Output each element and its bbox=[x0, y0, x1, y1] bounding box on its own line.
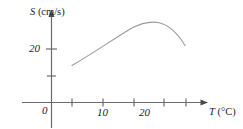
x-axis-title: T (°C) bbox=[209, 107, 236, 118]
x-axis-title-unit: (°C) bbox=[215, 106, 236, 117]
x-tick-label-20: 20 bbox=[139, 107, 150, 118]
x-origin-label: 0 bbox=[42, 105, 48, 116]
y-tick-label-20: 20 bbox=[29, 43, 40, 54]
y-axis-title: S (cm/s) bbox=[30, 7, 65, 18]
x-tick-label-10: 10 bbox=[97, 107, 108, 118]
chart-canvas bbox=[0, 0, 243, 129]
y-axis-title-unit: (cm/s) bbox=[35, 6, 64, 17]
chart-figure: S (cm/s) T (°C) 20 0 10 20 bbox=[0, 0, 243, 129]
data-curve-s-of-t bbox=[72, 22, 185, 65]
x-axis-arrow-icon bbox=[201, 99, 209, 105]
